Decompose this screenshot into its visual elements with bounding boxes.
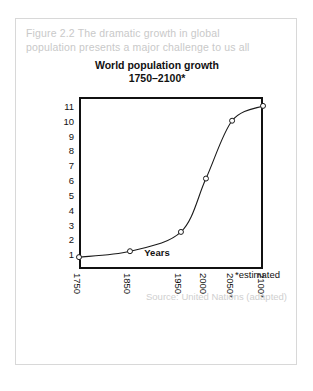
y-tick-label: 9 [69,130,74,141]
data-point-2050 [230,118,235,123]
data-line-path [79,106,263,257]
estimated-footnote: *estimated [235,269,280,280]
y-tick-label: 3 [69,219,74,230]
plot-area: Billions of people 1110987654321 1750185… [79,97,263,269]
population-line-chart [79,97,263,269]
y-tick-label: 8 [69,145,74,156]
data-point-2000 [203,176,208,181]
figure-caption-line-2: population presents a major challenge to… [26,40,288,54]
y-tick-label: 2 [69,234,74,245]
y-tick-label: 4 [69,204,74,215]
chart-title-main: World population growth [16,59,298,72]
data-point-1950 [178,229,183,234]
x-axis-title: Years [16,247,298,258]
chart-title: World population growth 1750–2100* [16,59,298,84]
chart-title-subtitle: 1750–2100* [16,72,298,85]
y-tick-label: 11 [64,100,74,111]
y-tick-label: 6 [69,175,74,186]
source-note: Source: United Nations (adapted) [16,291,287,302]
figure-frame: Figure 2.2 The dramatic growth in global… [15,18,297,365]
data-point-2100 [261,103,266,108]
y-tick-label: 5 [69,189,74,200]
data-point-markers [77,103,266,259]
figure-caption: Figure 2.2 The dramatic growth in global… [26,26,288,54]
y-tick-label: 7 [69,160,74,171]
figure-caption-line-1: Figure 2.2 The dramatic growth in global [26,26,288,40]
y-tick-label: 10 [63,115,74,126]
